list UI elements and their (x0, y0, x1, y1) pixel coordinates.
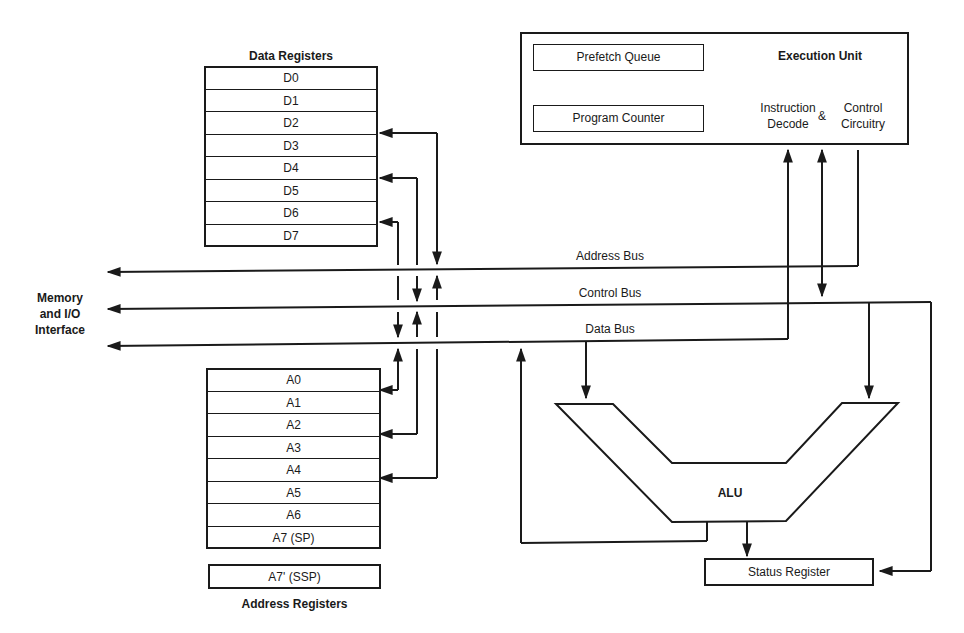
register-a2: A2 (208, 414, 379, 437)
control-bus-label: Control Bus (560, 286, 660, 300)
register-a3: A3 (208, 437, 379, 460)
register-d4: D4 (206, 157, 376, 180)
data-bus-line (108, 339, 788, 346)
execution-unit-title: Execution Unit (770, 49, 870, 63)
memory-io-label-3: Interface (30, 323, 90, 337)
ampersand-label: & (814, 109, 830, 123)
register-d1: D1 (206, 90, 376, 113)
program-counter-box: Program Counter (533, 105, 704, 132)
data-bus-label: Data Bus (560, 322, 660, 336)
address-bus-label: Address Bus (560, 249, 660, 263)
register-a4: A4 (208, 459, 379, 482)
register-d5: D5 (206, 180, 376, 203)
register-a7-ssp: A7' (SSP) (208, 564, 381, 589)
status-register-box: Status Register (704, 558, 874, 586)
address-bus-line (108, 266, 858, 272)
control-circuitry-label-1: Control (830, 101, 896, 115)
register-a7-sp: A7 (SP) (208, 527, 379, 549)
register-a0: A0 (208, 369, 379, 392)
alu-shape (556, 403, 898, 522)
memory-io-label-2: and I/O (30, 307, 90, 321)
data-register-list: D0 D1 D2 D3 D4 D5 D6 D7 (206, 67, 376, 247)
data-registers-title: Data Registers (205, 49, 377, 63)
prefetch-queue-box: Prefetch Queue (533, 44, 704, 71)
register-a6: A6 (208, 504, 379, 527)
address-register-list: A0 A1 A2 A3 A4 A5 A6 A7 (SP) (208, 369, 379, 549)
control-bus-line (108, 302, 931, 309)
alu-label: ALU (710, 486, 750, 500)
address-registers-title: Address Registers (208, 597, 381, 611)
register-d0: D0 (206, 67, 376, 90)
register-a1: A1 (208, 392, 379, 415)
register-d2: D2 (206, 112, 376, 135)
register-d7: D7 (206, 225, 376, 247)
control-circuitry-label-2: Circuitry (830, 117, 896, 131)
register-a5: A5 (208, 482, 379, 505)
register-d3: D3 (206, 135, 376, 158)
register-d6: D6 (206, 202, 376, 225)
memory-io-label-1: Memory (30, 291, 90, 305)
